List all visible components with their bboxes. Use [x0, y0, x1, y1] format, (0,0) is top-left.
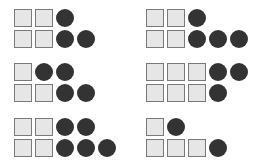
group-bottom-right — [146, 118, 227, 160]
circle-shape — [209, 84, 227, 102]
shape-row — [14, 118, 116, 136]
square-shape — [146, 118, 164, 136]
group-bottom-left — [14, 118, 116, 160]
square-shape — [14, 30, 32, 48]
group-middle-left — [14, 63, 95, 105]
square-shape — [167, 63, 185, 81]
square-shape — [35, 139, 53, 157]
square-shape — [167, 84, 185, 102]
square-shape — [167, 30, 185, 48]
circle-shape — [98, 139, 116, 157]
circle-shape — [77, 118, 95, 136]
circle-shape — [56, 139, 74, 157]
square-shape — [146, 9, 164, 27]
square-shape — [14, 9, 32, 27]
square-shape — [146, 139, 164, 157]
circle-shape — [56, 9, 74, 27]
circle-shape — [56, 118, 74, 136]
square-shape — [35, 9, 53, 27]
circle-shape — [56, 63, 74, 81]
circle-shape — [188, 9, 206, 27]
shape-row — [146, 139, 227, 157]
circle-shape — [35, 63, 53, 81]
circle-shape — [209, 30, 227, 48]
circle-shape — [77, 30, 95, 48]
circle-shape — [77, 139, 95, 157]
square-shape — [146, 84, 164, 102]
square-shape — [188, 84, 206, 102]
shape-row — [14, 139, 116, 157]
shape-row — [146, 9, 248, 27]
circle-shape — [188, 30, 206, 48]
group-top-left — [14, 9, 95, 51]
circle-shape — [230, 30, 248, 48]
square-shape — [167, 139, 185, 157]
shape-row — [146, 63, 248, 81]
square-shape — [14, 118, 32, 136]
shape-row — [146, 84, 248, 102]
square-shape — [35, 30, 53, 48]
square-shape — [146, 30, 164, 48]
square-shape — [146, 63, 164, 81]
group-top-right — [146, 9, 248, 51]
circle-shape — [230, 63, 248, 81]
circle-shape — [209, 139, 227, 157]
shape-row — [146, 30, 248, 48]
square-shape — [188, 63, 206, 81]
square-shape — [14, 84, 32, 102]
shape-row — [14, 9, 95, 27]
square-shape — [35, 84, 53, 102]
circle-shape — [167, 118, 185, 136]
shape-row — [14, 63, 95, 81]
square-shape — [167, 9, 185, 27]
shape-row — [146, 118, 227, 136]
circle-shape — [209, 63, 227, 81]
group-middle-right — [146, 63, 248, 105]
square-shape — [14, 139, 32, 157]
square-shape — [188, 139, 206, 157]
shape-row — [14, 30, 95, 48]
shape-row — [14, 84, 95, 102]
circle-shape — [77, 84, 95, 102]
square-shape — [14, 63, 32, 81]
circle-shape — [56, 30, 74, 48]
circle-shape — [56, 84, 74, 102]
square-shape — [35, 118, 53, 136]
